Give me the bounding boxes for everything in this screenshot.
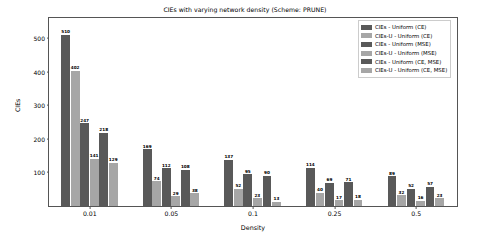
chart-legend: CIEs - Uniform (CE)CIEs-U - Uniform (CE)… <box>358 20 451 78</box>
bar: 218 <box>99 133 108 206</box>
x-axis-tick-mark <box>334 206 335 209</box>
y-axis-tick-mark <box>47 172 50 173</box>
bar: 57 <box>426 187 435 206</box>
bar: 23 <box>435 198 444 206</box>
bar: 89 <box>388 176 397 206</box>
bar: 17 <box>335 200 344 206</box>
bar: 169 <box>143 149 152 206</box>
bar-value-label: 18 <box>355 194 361 199</box>
y-axis-tick-mark <box>47 38 50 39</box>
bar-value-label: 74 <box>154 176 160 181</box>
legend-item[interactable]: CIEs - Uniform (CE, MSE) <box>361 57 447 66</box>
x-axis-tick-mark <box>253 206 254 209</box>
legend-item[interactable]: CIEs - Uniform (MSE) <box>361 40 447 49</box>
bar-value-label: 402 <box>71 65 80 70</box>
bar-value-label: 69 <box>327 177 333 182</box>
legend-swatch-icon <box>361 25 372 30</box>
bar: 90 <box>263 176 272 206</box>
y-axis-tick-mark <box>47 105 50 106</box>
legend-label: CIEs-U - Uniform (CE) <box>375 33 432 39</box>
bar-value-label: 108 <box>181 164 190 169</box>
bar-value-label: 247 <box>80 118 89 123</box>
legend-item[interactable]: CIEs-U - Uniform (CE, MSE) <box>361 66 447 75</box>
chart-title: CIEs with varying network density (Schem… <box>0 6 490 13</box>
bar-value-label: 38 <box>192 188 198 193</box>
bar: 402 <box>71 71 80 206</box>
y-axis-tick-mark <box>47 138 50 139</box>
y-axis-tick-mark <box>47 71 50 72</box>
x-axis-label: Density <box>48 224 458 232</box>
legend-label: CIEs-U - Uniform (MSE) <box>375 50 437 56</box>
bar-value-label: 52 <box>235 183 241 188</box>
bar: 32 <box>397 195 406 206</box>
x-axis-tick-mark <box>89 206 90 209</box>
bar-value-label: 112 <box>162 163 171 168</box>
bar: 23 <box>253 198 262 206</box>
bar-value-label: 71 <box>346 177 352 182</box>
legend-swatch-icon <box>361 42 372 47</box>
bar: 137 <box>224 160 233 206</box>
bar-value-label: 57 <box>427 181 433 186</box>
bar-value-label: 52 <box>408 183 414 188</box>
bar-value-label: 17 <box>336 195 342 200</box>
legend-item[interactable]: CIEs-U - Uniform (CE) <box>361 32 447 41</box>
legend-label: CIEs-U - Uniform (CE, MSE) <box>375 67 447 73</box>
chart-figure: CIEs with varying network density (Schem… <box>0 0 490 250</box>
legend-swatch-icon <box>361 33 372 38</box>
bar-value-label: 13 <box>273 196 279 201</box>
bar: 141 <box>90 159 99 206</box>
legend-swatch-icon <box>361 51 372 56</box>
bar-value-label: 29 <box>173 191 179 196</box>
bar: 38 <box>190 193 199 206</box>
legend-label: CIEs - Uniform (MSE) <box>375 41 431 47</box>
legend-swatch-icon <box>361 68 372 73</box>
bar-value-label: 32 <box>399 190 405 195</box>
bar: 52 <box>234 189 243 206</box>
bar-value-label: 218 <box>99 127 108 132</box>
bar-value-label: 23 <box>254 193 260 198</box>
bar-value-label: 16 <box>418 195 424 200</box>
bar: 247 <box>80 123 89 206</box>
bar: 510 <box>61 35 70 206</box>
bar: 114 <box>306 168 315 206</box>
bar-value-label: 137 <box>224 154 233 159</box>
legend-item[interactable]: CIEs-U - Uniform (MSE) <box>361 49 447 58</box>
legend-item[interactable]: CIEs - Uniform (CE) <box>361 23 447 32</box>
bar-value-label: 90 <box>264 170 270 175</box>
legend-swatch-icon <box>361 59 372 64</box>
bar-value-label: 169 <box>143 144 152 149</box>
bar: 95 <box>243 174 252 206</box>
bar: 71 <box>344 182 353 206</box>
bar-value-label: 95 <box>245 169 251 174</box>
bar-value-label: 89 <box>389 171 395 176</box>
bar: 16 <box>416 201 425 206</box>
bar: 40 <box>316 193 325 206</box>
bar: 108 <box>181 170 190 206</box>
bar-value-label: 129 <box>109 157 118 162</box>
bar: 74 <box>152 181 161 206</box>
x-axis-tick-mark <box>171 206 172 209</box>
y-axis-label: CIEs <box>14 99 21 112</box>
bar-value-label: 141 <box>90 153 99 158</box>
x-axis-tick-mark <box>416 206 417 209</box>
bar: 29 <box>171 196 180 206</box>
legend-label: CIEs - Uniform (CE, MSE) <box>375 59 441 65</box>
bar-value-label: 510 <box>61 29 70 34</box>
bar-value-label: 40 <box>317 187 323 192</box>
bar-value-label: 114 <box>306 162 315 167</box>
bar: 129 <box>109 163 118 206</box>
legend-label: CIEs - Uniform (CE) <box>375 24 426 30</box>
bar: 52 <box>407 189 416 206</box>
bar: 13 <box>272 202 281 206</box>
bar: 112 <box>162 168 171 206</box>
bar: 69 <box>325 183 334 206</box>
bar: 18 <box>354 200 363 206</box>
bar-value-label: 23 <box>437 193 443 198</box>
